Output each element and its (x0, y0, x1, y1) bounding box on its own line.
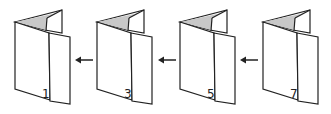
page-number-5: 5 (207, 87, 215, 101)
arrow-left-icon (158, 57, 176, 64)
arrow-3 (240, 57, 258, 64)
arrow-1 (75, 57, 93, 64)
page-number-3: 3 (124, 87, 132, 101)
folding-diagram: 1 3 5 7 (0, 0, 331, 114)
leaflet-7: 7 (263, 10, 318, 104)
page-number-1: 1 (42, 87, 50, 101)
leaflet-1: 1 (15, 10, 70, 104)
leaflet-3: 3 (97, 10, 152, 104)
page-number-7: 7 (290, 87, 298, 101)
arrow-left-icon (75, 57, 93, 64)
leaflet-5: 5 (180, 10, 235, 104)
diagram-canvas: 1 3 5 7 (0, 0, 331, 114)
arrow-left-icon (240, 57, 258, 64)
arrow-2 (158, 57, 176, 64)
